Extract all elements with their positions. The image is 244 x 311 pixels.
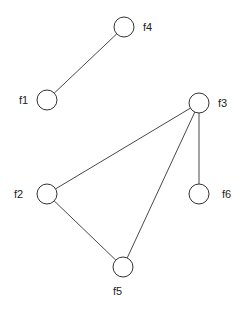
edge-f4-f1 bbox=[54, 34, 116, 93]
node-circle-f6 bbox=[189, 184, 209, 204]
node-label-f1: f1 bbox=[19, 94, 28, 106]
edge-f2-f5 bbox=[54, 201, 116, 260]
node-f2: f2 bbox=[14, 184, 57, 204]
node-label-f2: f2 bbox=[14, 188, 23, 200]
node-f1: f1 bbox=[19, 90, 57, 110]
node-label-f3: f3 bbox=[218, 97, 227, 109]
node-label-f4: f4 bbox=[143, 21, 152, 33]
node-f3: f3 bbox=[189, 93, 227, 113]
node-f4: f4 bbox=[114, 17, 152, 37]
node-label-f5: f5 bbox=[113, 285, 122, 297]
node-circle-f2 bbox=[37, 184, 57, 204]
node-f5: f5 bbox=[113, 257, 133, 297]
graph-diagram: f1f2f3f4f5f6 bbox=[0, 0, 244, 311]
node-circle-f5 bbox=[113, 257, 133, 277]
node-circle-f1 bbox=[37, 90, 57, 110]
edge-f3-f5 bbox=[127, 112, 195, 258]
edges bbox=[54, 34, 199, 260]
node-circle-f3 bbox=[189, 93, 209, 113]
edge-f3-f2 bbox=[56, 108, 191, 189]
node-label-f6: f6 bbox=[222, 188, 231, 200]
node-circle-f4 bbox=[114, 17, 134, 37]
node-f6: f6 bbox=[189, 184, 231, 204]
